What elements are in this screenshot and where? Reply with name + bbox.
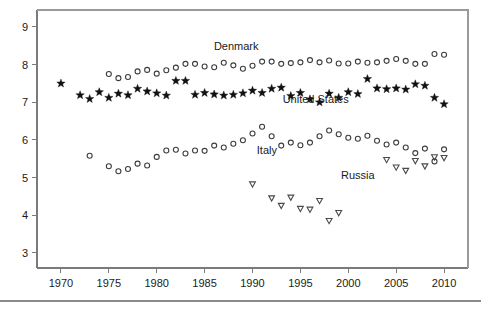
data-point [422, 61, 427, 66]
y-tick-label: 6 [22, 134, 28, 146]
data-point [125, 166, 130, 171]
series-label-russia: Russia [341, 169, 376, 181]
data-point [181, 76, 189, 84]
data-point [183, 61, 188, 66]
y-tick-label: 8 [22, 59, 28, 71]
data-point [164, 68, 169, 73]
data-point [392, 84, 400, 92]
data-point [240, 138, 245, 143]
data-point [317, 198, 323, 203]
data-point [191, 90, 199, 98]
data-point [164, 148, 169, 153]
data-point [403, 58, 408, 63]
series-russia [250, 155, 447, 224]
data-point [430, 93, 438, 101]
series-denmark [106, 52, 446, 81]
data-point [153, 89, 161, 97]
data-point [229, 90, 237, 98]
data-point [231, 63, 236, 68]
data-point [373, 84, 381, 92]
data-point [173, 147, 178, 152]
data-point [154, 154, 159, 159]
data-point [307, 140, 312, 145]
data-point [375, 60, 380, 65]
x-tick-label: 1985 [192, 277, 216, 289]
x-tick-label: 1995 [288, 277, 312, 289]
data-point [260, 124, 265, 129]
data-point [193, 61, 198, 66]
data-point [220, 91, 228, 99]
data-point [288, 61, 293, 66]
series-layer [57, 52, 448, 224]
data-point [250, 182, 256, 187]
data-point [239, 89, 247, 97]
data-point [57, 79, 65, 87]
data-point [355, 136, 360, 141]
data-point [421, 81, 429, 89]
y-tick-label: 5 [22, 172, 28, 184]
data-point [346, 61, 351, 66]
data-point [269, 59, 274, 64]
data-point [411, 80, 419, 88]
x-tick-label: 1980 [144, 277, 168, 289]
annotation-layer: DenmarkUnited StatesItalyRussia [214, 40, 376, 181]
data-point [173, 65, 178, 70]
data-point [422, 146, 427, 151]
data-point [355, 59, 360, 64]
data-point [202, 148, 207, 153]
data-point [210, 90, 218, 98]
series-label-denmark: Denmark [214, 40, 259, 52]
data-point [298, 60, 303, 65]
data-point [231, 141, 236, 146]
data-point [105, 93, 113, 101]
data-point [393, 165, 399, 170]
data-point [154, 71, 159, 76]
data-point [87, 153, 92, 158]
scatter-plot: 3456789197019751980198519901995200020052… [0, 0, 481, 314]
series-label-united-states: United States [283, 93, 350, 105]
data-point [298, 143, 303, 148]
data-point [384, 58, 389, 63]
data-point [183, 151, 188, 156]
data-point [114, 89, 122, 97]
data-point [413, 61, 418, 66]
data-point [116, 76, 121, 81]
data-point [403, 145, 408, 150]
data-point [297, 206, 303, 211]
data-point [346, 135, 351, 140]
data-point [394, 56, 399, 61]
data-point [221, 145, 226, 150]
data-point [145, 67, 150, 72]
data-point [124, 91, 132, 99]
plot-frame [0, 10, 481, 301]
data-point [382, 85, 390, 93]
data-point [212, 65, 217, 70]
data-point [212, 143, 217, 148]
data-point [394, 140, 399, 145]
data-point [384, 142, 389, 147]
data-point [250, 131, 255, 136]
y-tick-label: 4 [22, 209, 28, 221]
data-point [365, 133, 370, 138]
x-tick-label: 1975 [97, 277, 121, 289]
data-point [402, 85, 410, 93]
data-point [442, 52, 447, 57]
series-united-states [57, 75, 448, 108]
data-point [133, 84, 141, 92]
data-point [135, 69, 140, 74]
data-point [193, 148, 198, 153]
data-point [279, 143, 284, 148]
data-point [336, 132, 341, 137]
data-point [269, 196, 275, 201]
data-point [277, 83, 285, 91]
data-point [202, 64, 207, 69]
x-tick-label: 2010 [432, 277, 456, 289]
data-point [365, 60, 370, 65]
x-tick-label: 2005 [384, 277, 408, 289]
data-point [143, 87, 151, 95]
data-point [336, 61, 341, 66]
data-point [258, 88, 266, 96]
data-point [269, 134, 274, 139]
data-point [267, 84, 275, 92]
data-point [279, 61, 284, 66]
